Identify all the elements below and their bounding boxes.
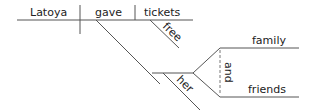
indirect-object-slant xyxy=(96,20,160,84)
compound-item-2-word: friends xyxy=(248,83,286,96)
fork-upper-branch xyxy=(193,48,220,73)
modifier-word: free xyxy=(160,20,185,45)
indirect-object-word: her xyxy=(174,73,196,95)
subject-word: Latoya xyxy=(30,6,67,19)
compound-item-1-word: family xyxy=(252,34,286,47)
direct-object-word: tickets xyxy=(144,6,180,19)
verb-word: gave xyxy=(95,6,122,19)
sentence-diagram: Latoya gave tickets free her family frie… xyxy=(0,0,309,112)
conjunction-word: and xyxy=(222,62,235,83)
fork-lower-branch xyxy=(193,73,220,97)
